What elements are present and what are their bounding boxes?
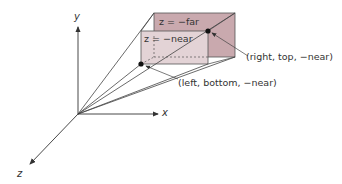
y-axis-label: y bbox=[74, 12, 80, 22]
x-axis-label: x bbox=[162, 108, 168, 118]
point-left-bottom-near bbox=[138, 61, 143, 66]
point-right-top-near bbox=[205, 28, 210, 33]
far-plane-label: z = −far bbox=[159, 17, 199, 27]
callout-left-bottom-near: (left, bottom, −near) bbox=[178, 78, 277, 88]
z-axis-label: z bbox=[17, 169, 22, 179]
near-plane-label: z = −near bbox=[144, 34, 193, 44]
callout-right-top-near: (right, top, −near) bbox=[246, 52, 333, 62]
frustum-diagram bbox=[0, 0, 342, 184]
z-axis bbox=[30, 114, 78, 164]
